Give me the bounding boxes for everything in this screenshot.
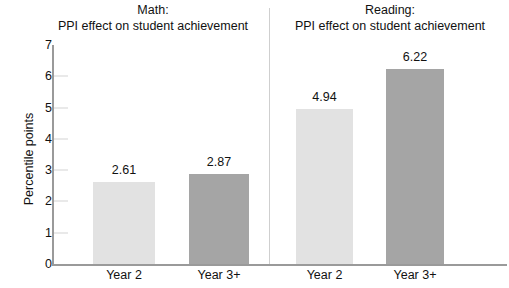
- bar: [93, 182, 155, 264]
- x-tick-label: Year 2: [282, 268, 367, 282]
- bar-value-label: 4.94: [296, 90, 353, 104]
- y-tick-label: 1: [6, 226, 52, 240]
- bar-value-label: 6.22: [386, 50, 444, 64]
- bar: [386, 69, 444, 264]
- panel-divider: [269, 8, 270, 264]
- x-tick-label: Year 3+: [175, 268, 263, 282]
- panel-title-reading-line1: Reading:: [272, 2, 508, 18]
- panel-title-math-line1: Math:: [42, 2, 264, 18]
- panel-title-reading-line2: PPI effect on student achievement: [272, 18, 508, 34]
- bar-value-label: 2.61: [93, 163, 155, 177]
- y-tick-label: 6: [6, 69, 52, 83]
- panel-title-reading: Reading: PPI effect on student achieveme…: [272, 2, 508, 34]
- y-gridline: [54, 138, 68, 139]
- y-gridline: [54, 170, 68, 171]
- y-tick-label: 5: [6, 101, 52, 115]
- x-tick-label: Year 2: [79, 268, 169, 282]
- y-tick-label: 3: [6, 163, 52, 177]
- x-tick-label: Year 3+: [372, 268, 458, 282]
- y-gridline: [54, 201, 68, 202]
- panel-title-math-line2: PPI effect on student achievement: [42, 18, 264, 34]
- y-gridline: [54, 107, 68, 108]
- panel-title-math: Math: PPI effect on student achievement: [42, 2, 264, 34]
- bar-chart-figure: Math: PPI effect on student achievement …: [0, 0, 509, 288]
- bar: [189, 174, 249, 264]
- y-tick-label: 2: [6, 194, 52, 208]
- x-axis-line: [52, 264, 507, 266]
- y-tick-label: 7: [6, 38, 52, 52]
- bar-value-label: 2.87: [189, 155, 249, 169]
- y-gridline: [54, 76, 68, 77]
- y-tick-label: 0: [6, 257, 52, 271]
- bar: [296, 109, 353, 264]
- y-tick-label: 4: [6, 132, 52, 146]
- y-gridline: [54, 232, 68, 233]
